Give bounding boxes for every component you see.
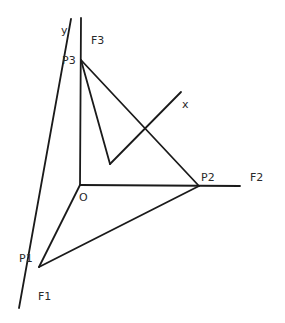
label-f3: F3 (91, 34, 104, 47)
f3-line (80, 18, 81, 185)
label-f2: F2 (250, 171, 263, 184)
label-f1: F1 (38, 290, 51, 303)
label-o: O (79, 191, 88, 204)
o-p1-line (39, 185, 80, 267)
p1-p2-edge (39, 186, 199, 267)
label-y-axis: y (61, 24, 68, 37)
label-p2: P2 (201, 171, 215, 184)
f2-line (80, 185, 240, 186)
diagram-canvas: y F3 P3 x P2 F2 O P1 F1 (0, 0, 285, 323)
label-p1: P1 (19, 252, 33, 265)
label-x-axis: x (182, 98, 189, 111)
label-p3: P3 (62, 54, 76, 67)
